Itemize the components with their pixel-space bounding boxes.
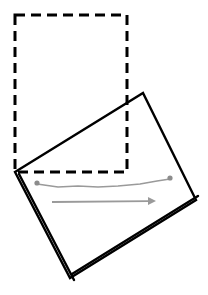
end-dot <box>167 175 172 180</box>
start-dot <box>34 180 39 185</box>
diagram-canvas <box>0 0 208 295</box>
figure-root <box>0 0 208 295</box>
direction-arrow-shaft <box>52 201 148 202</box>
